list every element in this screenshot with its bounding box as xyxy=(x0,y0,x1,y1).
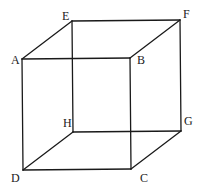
vertex-label-g: G xyxy=(184,114,193,128)
vertex-label-b: B xyxy=(137,53,145,67)
edge-HE xyxy=(72,21,73,132)
edge-CD xyxy=(23,169,131,170)
edge-DA xyxy=(22,59,23,170)
edge-AE xyxy=(22,21,72,59)
edge-GH xyxy=(73,131,181,132)
edge-DH xyxy=(23,132,73,170)
vertex-label-h: H xyxy=(63,116,72,130)
vertex-label-c: C xyxy=(140,171,148,185)
vertex-label-a: A xyxy=(11,53,20,67)
cube-edges xyxy=(22,20,181,170)
edge-FG xyxy=(180,20,181,131)
edge-BC xyxy=(130,58,131,169)
vertex-label-e: E xyxy=(62,9,69,23)
vertex-label-d: D xyxy=(11,171,20,185)
edge-AB xyxy=(22,58,130,59)
edge-CG xyxy=(131,131,181,169)
edge-EF xyxy=(72,20,180,21)
cube-diagram: A B C D E F G H xyxy=(0,0,203,191)
vertex-label-f: F xyxy=(183,7,190,21)
